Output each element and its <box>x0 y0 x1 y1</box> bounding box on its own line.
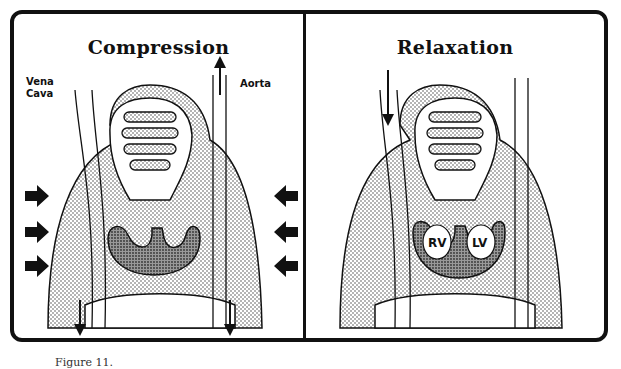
figure-caption: Figure 11. <box>55 356 113 369</box>
aorta-label: Aorta <box>240 78 271 90</box>
panel-title-compression: Compression <box>14 36 303 58</box>
panel-compression: Compression Vena Cava Aorta <box>14 14 303 338</box>
panel-relaxation: Relaxation <box>306 14 604 338</box>
panel-title-relaxation: Relaxation <box>306 36 604 58</box>
vena-cava-label: Vena Cava <box>26 76 54 100</box>
